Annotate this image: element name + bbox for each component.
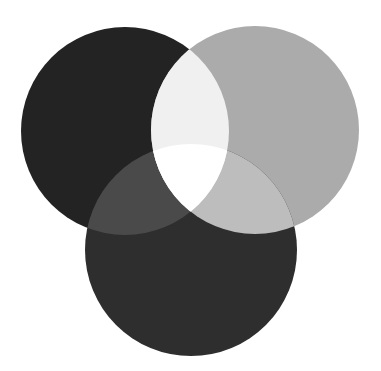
venn-diagram [0,0,381,371]
venn-diagram-stage [0,0,381,371]
